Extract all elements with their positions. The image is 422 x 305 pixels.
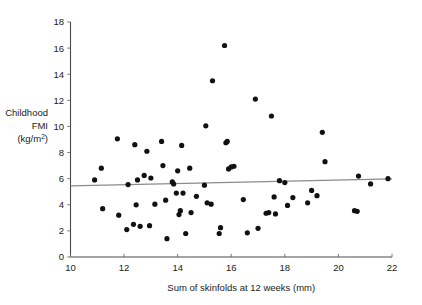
regression-line: [71, 179, 393, 186]
data-point: [194, 194, 199, 199]
x-tick-label: 10: [65, 262, 76, 273]
data-point: [142, 173, 147, 178]
data-point: [138, 224, 143, 229]
data-point: [385, 176, 390, 181]
data-point: [135, 177, 140, 182]
data-point: [187, 166, 192, 171]
data-point: [132, 142, 137, 147]
data-point: [273, 211, 278, 216]
data-point: [144, 149, 149, 154]
data-point: [175, 168, 180, 173]
data-point: [92, 177, 97, 182]
data-point: [115, 136, 120, 141]
data-point: [320, 130, 325, 135]
y-tick-label: 14: [53, 69, 64, 80]
x-tick-label: 14: [172, 262, 183, 273]
y-tick-label: 12: [53, 95, 64, 106]
x-tick-label: 18: [280, 262, 291, 273]
x-tick-label: 20: [333, 262, 344, 273]
data-point: [277, 178, 282, 183]
data-point: [124, 227, 129, 232]
data-point: [314, 193, 319, 198]
data-point: [147, 223, 152, 228]
data-point: [231, 164, 236, 169]
data-point: [171, 181, 176, 186]
data-point: [178, 208, 183, 213]
y-tick-label: 8: [59, 147, 64, 158]
data-point: [222, 43, 227, 48]
data-point: [152, 202, 157, 207]
x-tick-label: 16: [226, 262, 237, 273]
data-point: [266, 210, 271, 215]
data-point: [218, 225, 223, 230]
data-point: [174, 190, 179, 195]
data-point: [202, 183, 207, 188]
y-tick-label: 6: [59, 173, 64, 184]
data-point: [163, 198, 168, 203]
y-tick-label: 4: [59, 199, 64, 210]
data-point: [159, 139, 164, 144]
chart-canvas: 02468101214161810121416182022Sum of skin…: [0, 0, 422, 305]
x-axis-title: Sum of skinfolds at 12 weeks (mm): [167, 282, 315, 293]
data-point: [282, 180, 287, 185]
data-point: [131, 222, 136, 227]
data-point: [368, 181, 373, 186]
y-axis-title-line-2: FMI: [32, 120, 48, 131]
data-point: [164, 236, 169, 241]
data-point: [241, 197, 246, 202]
data-point: [253, 96, 258, 101]
data-point: [290, 195, 295, 200]
data-point: [160, 163, 165, 168]
data-point: [305, 200, 310, 205]
data-point: [322, 159, 327, 164]
data-point: [309, 188, 314, 193]
data-point: [356, 173, 361, 178]
y-tick-label: 10: [53, 121, 64, 132]
data-point: [99, 166, 104, 171]
y-axis-title-line-1: Childhood: [5, 107, 48, 118]
data-point: [188, 210, 193, 215]
data-point: [100, 206, 105, 211]
data-point: [179, 143, 184, 148]
data-point: [126, 182, 131, 187]
y-tick-label: 0: [59, 251, 64, 262]
x-tick-label: 22: [387, 262, 398, 273]
y-axis-title-line-3: (kg/m2): [17, 133, 48, 145]
y-tick-label: 16: [53, 43, 64, 54]
data-point: [255, 226, 260, 231]
data-point: [209, 202, 214, 207]
scatter-plot-figure: 02468101214161810121416182022Sum of skin…: [0, 0, 422, 305]
data-point: [134, 202, 139, 207]
data-point: [116, 213, 121, 218]
data-point: [210, 78, 215, 83]
data-point: [272, 194, 277, 199]
data-point: [245, 230, 250, 235]
data-point: [180, 190, 185, 195]
y-tick-label: 18: [53, 16, 64, 27]
data-point-group: [92, 43, 391, 241]
data-point: [217, 231, 222, 236]
data-point: [269, 113, 274, 118]
data-point: [183, 231, 188, 236]
x-tick-label: 12: [119, 262, 130, 273]
data-point: [203, 123, 208, 128]
data-point: [355, 209, 360, 214]
data-point: [148, 175, 153, 180]
data-point: [285, 203, 290, 208]
data-point: [225, 139, 230, 144]
y-tick-label: 2: [59, 225, 64, 236]
